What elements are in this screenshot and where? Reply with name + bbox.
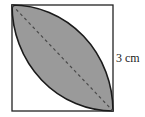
side-length-label: 3 cm (116, 51, 140, 66)
